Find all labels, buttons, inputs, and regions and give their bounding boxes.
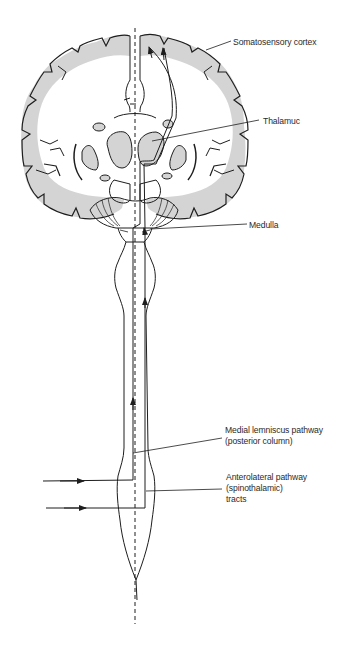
pathway-diagram (0, 0, 341, 651)
diagram-canvas: Somatosensory cortex Thalamuc Medulla Me… (0, 0, 341, 651)
label-anterolateral-line2: (spinothalamic) (226, 483, 283, 493)
label-medulla: Medulla (249, 220, 278, 230)
leader-somatosensory-cortex (206, 41, 231, 50)
brain-left-hemisphere (21, 35, 136, 219)
label-medial-lemniscus-line2: (posterior column) (225, 436, 292, 446)
anterolateral-pathway (46, 47, 176, 508)
leader-medial-lemniscus (133, 438, 222, 453)
label-anterolateral-line3: tracts (226, 494, 246, 504)
label-anterolateral-line1: Anterolateral pathway (226, 472, 307, 482)
leader-anterolateral (146, 489, 222, 491)
brain-right-hemisphere (140, 35, 248, 219)
label-medial-lemniscus-line1: Medial lemniscus pathway (225, 425, 323, 435)
label-somatosensory-cortex: Somatosensory cortex (233, 37, 317, 47)
label-thalamus: Thalamuc (263, 116, 300, 126)
